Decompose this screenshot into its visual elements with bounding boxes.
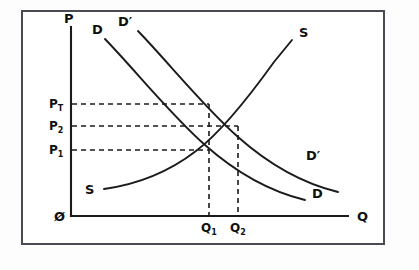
figure-root: P Q Ø PT P2 P1 Q1 Q2 [0, 0, 419, 270]
quantity-tick-q2: Q2 [230, 221, 246, 237]
supply-curve [104, 40, 292, 189]
price-tick-pt-base: P [49, 97, 58, 111]
price-tick-pt: PT [49, 97, 64, 113]
guide-pt [72, 104, 209, 216]
svg-text:P1: P1 [49, 143, 64, 159]
demand-curve-label-right: D [312, 186, 323, 201]
svg-text:P2: P2 [49, 119, 63, 135]
quantity-tick-q1: Q1 [201, 221, 217, 237]
svg-text:Q2: Q2 [230, 221, 246, 237]
quantity-tick-q2-base: Q [230, 221, 240, 235]
price-tick-pt-subscript: T [58, 104, 64, 113]
demand-curve [105, 39, 305, 200]
quantity-tick-q2-subscript: 2 [240, 228, 246, 237]
guide-p2 [72, 126, 238, 216]
price-tick-p1-subscript: 1 [58, 150, 64, 159]
svg-text:PT: PT [49, 97, 64, 113]
origin-label: Ø [54, 209, 65, 224]
price-tick-p2: P2 [49, 119, 63, 135]
quantity-axis-label: Q [357, 209, 368, 224]
demand-shift-curve-label-top: D′ [118, 14, 133, 29]
supply-curve-label-top: S [299, 25, 308, 40]
price-axis-label: P [64, 11, 74, 26]
supply-demand-chart: P Q Ø PT P2 P1 Q1 Q2 [0, 0, 419, 270]
price-tick-p1-base: P [49, 143, 58, 157]
price-tick-p1: P1 [49, 143, 64, 159]
svg-text:Q1: Q1 [201, 221, 217, 237]
quantity-tick-q1-base: Q [201, 221, 211, 235]
demand-curve-label-top: D [92, 22, 103, 37]
demand-shift-curve-label-right: D′ [306, 148, 321, 163]
price-tick-p2-subscript: 2 [58, 126, 64, 135]
quantity-tick-q1-subscript: 1 [211, 228, 217, 237]
price-tick-p2-base: P [49, 119, 58, 133]
supply-curve-label-bottom: S [85, 182, 94, 197]
